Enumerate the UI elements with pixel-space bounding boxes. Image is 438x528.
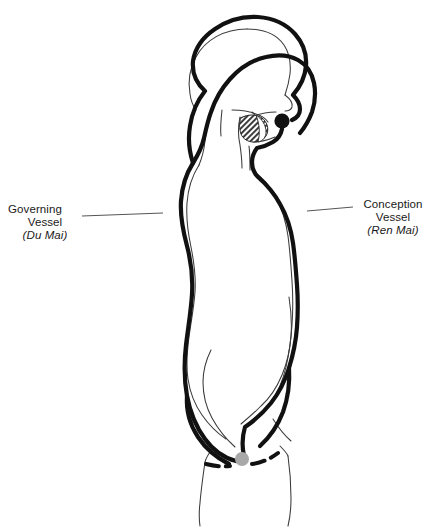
mouth-cavity (240, 115, 268, 142)
governing-vessel-line-1: Governing (8, 203, 82, 216)
governing-vessel-line-2: Vessel (8, 216, 82, 229)
label-conception-vessel: Conception Vessel (Ren Mai) (352, 198, 434, 238)
conception-vessel-line-2: Vessel (352, 211, 434, 224)
conception-vessel-pinyin: (Ren Mai) (352, 224, 434, 237)
governing-vessel-pinyin: (Du Mai) (8, 229, 82, 242)
mouth-junction-point (274, 113, 289, 128)
perineum-junction-point (235, 452, 249, 466)
canvas-background (0, 0, 438, 528)
conception-vessel-line-1: Conception (352, 198, 434, 211)
diagram-page: Governing Vessel (Du Mai) Conception Ves… (0, 0, 438, 528)
meridian-figure (0, 0, 438, 528)
label-governing-vessel: Governing Vessel (Du Mai) (8, 203, 82, 243)
